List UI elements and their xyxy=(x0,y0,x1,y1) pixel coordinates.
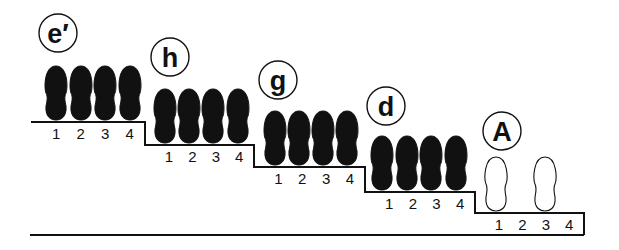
position-number: 4 xyxy=(346,170,354,187)
footprint-filled-icon xyxy=(420,136,442,190)
stage-label: e′ xyxy=(47,19,69,49)
footprint-filled-icon xyxy=(70,66,92,120)
position-number: 4 xyxy=(125,125,133,142)
position-number: 3 xyxy=(322,170,330,187)
position-number: 1 xyxy=(385,195,393,212)
position-number: 3 xyxy=(542,216,550,233)
position-number: 2 xyxy=(298,170,306,187)
footprint-outline-icon xyxy=(485,157,507,211)
stage-d: d1234 xyxy=(367,87,467,212)
position-number: 3 xyxy=(101,125,109,142)
position-number: 1 xyxy=(52,125,60,142)
stage-label: h xyxy=(162,43,179,73)
stage-label: g xyxy=(270,66,287,96)
position-number: 1 xyxy=(165,148,173,165)
stages: e′1234h1234g1234d1234A1234 xyxy=(39,14,573,233)
footprint-filled-icon xyxy=(154,89,176,143)
position-number: 4 xyxy=(456,195,464,212)
footprint-filled-icon xyxy=(264,111,286,165)
staircase-footprint-diagram: e′1234h1234g1234d1234A1234 xyxy=(0,0,619,250)
footprint-filled-icon xyxy=(445,136,467,190)
position-number: 2 xyxy=(76,125,84,142)
position-number: 3 xyxy=(432,195,440,212)
footprint-filled-icon xyxy=(45,66,67,120)
footprint-filled-icon xyxy=(396,136,418,190)
position-number: 1 xyxy=(274,170,282,187)
footprint-filled-icon xyxy=(94,66,116,120)
stage-a: A1234 xyxy=(483,112,573,233)
stage-g: g1234 xyxy=(259,61,358,187)
footprint-filled-icon xyxy=(119,66,141,120)
footprint-filled-icon xyxy=(371,136,393,190)
position-number: 2 xyxy=(518,216,526,233)
footprint-filled-icon xyxy=(312,111,334,165)
footprint-outline-icon xyxy=(534,157,556,211)
position-number: 2 xyxy=(188,148,196,165)
position-number: 1 xyxy=(495,216,503,233)
footprint-filled-icon xyxy=(227,89,249,143)
stage-label: d xyxy=(378,92,395,122)
position-number: 4 xyxy=(565,216,573,233)
stage-label: A xyxy=(492,117,512,147)
position-number: 3 xyxy=(212,148,220,165)
footprint-filled-icon xyxy=(288,111,310,165)
position-number: 4 xyxy=(235,148,243,165)
footprint-filled-icon xyxy=(178,89,200,143)
footprint-filled-icon xyxy=(202,89,224,143)
position-number: 2 xyxy=(409,195,417,212)
footprint-filled-icon xyxy=(336,111,358,165)
